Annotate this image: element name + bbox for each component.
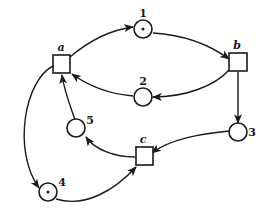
place-4-token	[47, 191, 50, 194]
place-1-label: 1	[139, 7, 147, 20]
place-5-label: 5	[86, 114, 94, 127]
place-4-label: 4	[58, 176, 66, 189]
arc-4-to-c	[56, 167, 136, 201]
arc-a-to-1	[70, 27, 133, 57]
place-2: 2	[134, 75, 152, 106]
arc-5-to-a	[62, 75, 75, 120]
transition-a: a	[53, 41, 70, 73]
transition-b-label: b	[233, 39, 241, 52]
place-4: 4	[39, 176, 66, 201]
arc-c-to-5	[86, 137, 135, 157]
transition-c-label: c	[140, 133, 147, 146]
place-3: 3	[229, 123, 256, 141]
arc-b-to-2	[153, 70, 229, 97]
arc-a-to-4	[24, 66, 53, 188]
arc-1-to-b	[153, 33, 229, 59]
transition-a-label: a	[57, 41, 64, 54]
place-1-token	[142, 28, 145, 31]
place-5: 5	[67, 114, 94, 137]
transition-c: c	[136, 133, 153, 165]
arc-3-to-c	[152, 131, 229, 153]
place-2-label: 2	[139, 75, 147, 88]
arc-2-to-a	[72, 74, 133, 96]
petri-net-diagram: a b c 1 2 3 5 4	[0, 0, 270, 217]
transition-b: b	[229, 39, 247, 71]
place-3-label: 3	[248, 126, 256, 139]
place-1: 1	[134, 7, 152, 38]
